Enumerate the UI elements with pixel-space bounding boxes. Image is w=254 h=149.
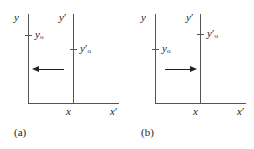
y0-prime-subscript: o <box>87 47 91 55</box>
y-prime-axis-line <box>73 14 74 104</box>
panel-b-caption: (b) <box>141 126 154 138</box>
y0-subscript: o <box>167 47 171 55</box>
x-prime-axis-label: x′ <box>237 106 244 117</box>
y-prime-axis-line <box>200 14 201 104</box>
y0-prime-tick-mark <box>70 49 77 50</box>
x-axis-line <box>155 103 201 104</box>
x-prime-axis-line <box>200 103 246 104</box>
panel-a-caption: (a) <box>14 126 26 138</box>
x-axis-line <box>28 103 74 104</box>
x-prime-mark: ′ <box>115 105 117 117</box>
x-prime-axis-label: x′ <box>110 106 117 117</box>
x-prime-mark: ′ <box>242 105 244 117</box>
y-axis-line <box>28 14 29 104</box>
panel-a: y x yo y′ x′ y′o (a) <box>0 0 127 149</box>
x-prime-axis-line <box>73 103 119 104</box>
y0-tick-label: yo <box>35 29 44 43</box>
y-axis-label: y <box>141 12 146 23</box>
relative-motion-arrow-left <box>38 69 64 70</box>
y0-prime-subscript: o <box>214 32 218 40</box>
x-axis-label: x <box>193 106 198 117</box>
relative-motion-arrow-right <box>165 69 191 70</box>
y0-tick-mark <box>25 35 32 36</box>
y-prime-mark: ′ <box>64 11 66 23</box>
figure-two-reference-frames: y x yo y′ x′ y′o (a) y x yo y′ <box>0 0 254 149</box>
y-prime-mark: ′ <box>191 11 193 23</box>
panel-b: y x yo y′ x′ y′o (b) <box>127 0 254 149</box>
x-axis-label: x <box>66 106 71 117</box>
y-prime-axis-label: y′ <box>186 12 193 23</box>
y0-tick-mark <box>152 49 159 50</box>
y-prime-axis-label: y′ <box>59 12 66 23</box>
y-axis-label: y <box>14 12 19 23</box>
y-axis-line <box>155 14 156 104</box>
y0-prime-tick-mark <box>197 34 204 35</box>
y0-prime-tick-label: y′o <box>207 28 218 42</box>
y0-tick-label: yo <box>162 43 171 57</box>
y0-prime-tick-label: y′o <box>80 43 91 57</box>
y0-subscript: o <box>40 33 44 41</box>
